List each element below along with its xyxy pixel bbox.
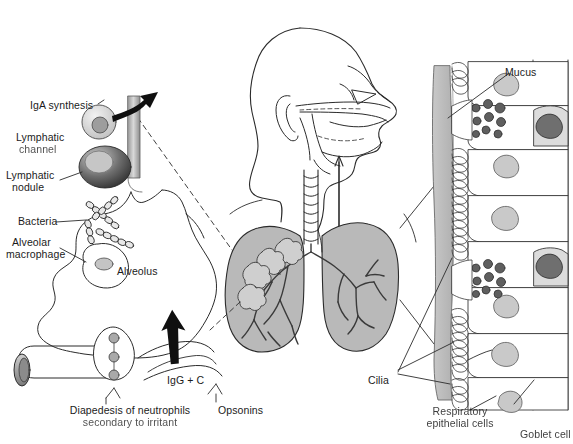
right-lung bbox=[322, 223, 399, 351]
label-diapedesis-line2: secondary to irritant bbox=[50, 416, 210, 428]
label-alveolar-macrophage-line2: macrophage bbox=[6, 248, 65, 260]
respiratory-defense-illustration bbox=[0, 0, 573, 444]
label-mucus: Mucus bbox=[505, 66, 536, 78]
trachea bbox=[304, 170, 318, 244]
label-bacteria: Bacteria bbox=[18, 215, 57, 227]
label-lymphatic-nodule-line2: nodule bbox=[12, 181, 44, 193]
label-lymphatic-nodule-line1: Lymphatic bbox=[6, 169, 54, 181]
label-igg-c: IgG + C bbox=[167, 374, 204, 386]
diagram-canvas: IgA synthesis Lymphatic channel Lymphati… bbox=[0, 0, 573, 444]
label-goblet-cell: Goblet cell bbox=[520, 428, 571, 440]
label-lymphatic-channel-line2: channel bbox=[19, 143, 56, 155]
label-cilia: Cilia bbox=[368, 374, 389, 386]
label-lymphatic-channel-line1: Lymphatic bbox=[16, 131, 64, 143]
ear bbox=[276, 96, 298, 141]
label-iga-synthesis: IgA synthesis bbox=[30, 99, 93, 111]
label-opsonins: Opsonins bbox=[218, 404, 263, 416]
lymphatic-nodule bbox=[79, 146, 131, 188]
nasal-cavity bbox=[340, 66, 390, 104]
label-respiratory-epithelial-line1: Respiratory bbox=[410, 405, 510, 417]
label-alveolar-macrophage-line1: Alveolar bbox=[12, 236, 51, 248]
igg-transport-arrow bbox=[159, 309, 189, 365]
label-diapedesis-line1: Diapedesis of neutrophils bbox=[50, 404, 210, 416]
label-alveolus: Alveolus bbox=[117, 265, 158, 277]
sagittal-head-profile bbox=[250, 28, 397, 230]
bacteria-chain bbox=[82, 193, 135, 249]
diapedesis-neutrophils bbox=[93, 327, 134, 380]
label-respiratory-epithelial-line2: epithelial cells bbox=[404, 417, 516, 429]
pharynx bbox=[296, 102, 390, 174]
magnification-lines-right bbox=[398, 186, 434, 344]
